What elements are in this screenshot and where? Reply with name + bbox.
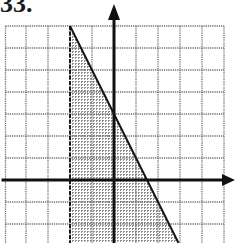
x-axis-arrow-icon (222, 174, 235, 186)
inequality-graph (0, 0, 235, 243)
y-axis-arrow-icon (108, 4, 120, 20)
